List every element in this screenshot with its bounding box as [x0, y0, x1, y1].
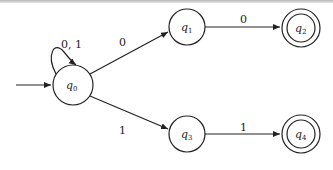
- state-q0: q0: [53, 65, 93, 105]
- state-q1: q1: [169, 9, 205, 45]
- automaton-diagram: 0, 1 0 0 1 1 q0 q1 q2 q3 q4: [0, 0, 333, 170]
- state-q4-accepting: q4: [282, 115, 320, 153]
- state-q2-accepting: q2: [282, 9, 320, 47]
- state-q3: q3: [169, 116, 205, 152]
- transition-q0-q3: [90, 96, 168, 129]
- label-q0-q1: 0: [119, 36, 126, 49]
- transition-q0-q1: [90, 32, 168, 74]
- label-q0-q0: 0, 1: [61, 38, 82, 51]
- label-q3-q4: 1: [240, 121, 247, 134]
- label-q1-q2: 0: [240, 13, 247, 26]
- label-q0-q3: 1: [119, 124, 126, 137]
